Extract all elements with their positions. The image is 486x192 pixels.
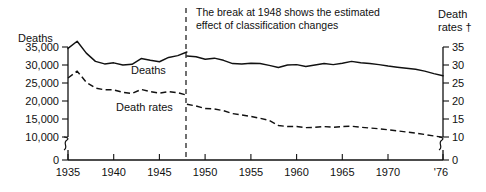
left-tick-label-30000: 30,000 bbox=[25, 59, 59, 71]
annotation-line-1: The break at 1948 shows the estimated bbox=[196, 6, 380, 18]
x-tick-label-1960: 1960 bbox=[284, 166, 308, 178]
right-tick-label-10: 10 bbox=[452, 131, 464, 143]
left-tick-label-20000: 20,000 bbox=[25, 95, 59, 107]
series-label-deaths: Deaths bbox=[131, 64, 166, 76]
left-tick-label-25000: 25,000 bbox=[25, 77, 59, 89]
left-tick-label-15000: 15,000 bbox=[25, 113, 59, 125]
x-tick-label-1955: 1955 bbox=[239, 166, 263, 178]
right-axis-title: Death rates † bbox=[438, 8, 472, 33]
x-axis: 1935 1940 1945 1950 1955 1960 1965 1970 … bbox=[56, 154, 448, 178]
x-tick-label-1970: 1970 bbox=[376, 166, 400, 178]
deaths-line-pre-break bbox=[68, 41, 187, 65]
right-tick-label-35: 35 bbox=[452, 41, 464, 53]
left-tick-label-10000: 10,000 bbox=[25, 131, 59, 143]
chart-figure: The break at 1948 shows the estimated ef… bbox=[0, 0, 486, 192]
x-tick-label-1940: 1940 bbox=[101, 166, 125, 178]
right-tick-label-25: 25 bbox=[452, 77, 464, 89]
right-tick-label-15: 15 bbox=[452, 113, 464, 125]
right-axis-title-line-2: rates † bbox=[438, 21, 472, 33]
annotation-note: The break at 1948 shows the estimated ef… bbox=[196, 6, 380, 31]
left-tick-label-35000: 35,000 bbox=[25, 41, 59, 53]
right-y-axis: 35 30 25 20 15 10 0 bbox=[439, 41, 464, 166]
left-tick-label-0: 0 bbox=[53, 154, 59, 166]
left-y-axis: 35,000 30,000 25,000 20,000 15,000 10,00… bbox=[25, 41, 68, 166]
right-axis-break-squiggle bbox=[439, 137, 443, 150]
series-label-death-rates: Death rates bbox=[116, 101, 173, 113]
plot-area bbox=[68, 41, 443, 137]
death-rates-line-pre-break bbox=[68, 71, 187, 95]
x-tick-label-1945: 1945 bbox=[147, 166, 171, 178]
annotation-line-2: effect of classification changes bbox=[196, 19, 338, 31]
right-tick-label-20: 20 bbox=[452, 95, 464, 107]
right-tick-label-30: 30 bbox=[452, 59, 464, 71]
x-tick-label-1976: '76 bbox=[434, 166, 448, 178]
x-tick-label-1965: 1965 bbox=[330, 166, 354, 178]
deaths-line-post-break bbox=[187, 56, 443, 76]
death-rates-line-post-break bbox=[187, 104, 443, 137]
right-axis-title-line-1: Death bbox=[438, 8, 467, 20]
left-axis-break-squiggle bbox=[64, 137, 68, 150]
x-tick-label-1950: 1950 bbox=[193, 166, 217, 178]
right-tick-label-0: 0 bbox=[452, 154, 458, 166]
x-tick-label-1935: 1935 bbox=[56, 166, 80, 178]
chart-svg: The break at 1948 shows the estimated ef… bbox=[0, 0, 486, 192]
